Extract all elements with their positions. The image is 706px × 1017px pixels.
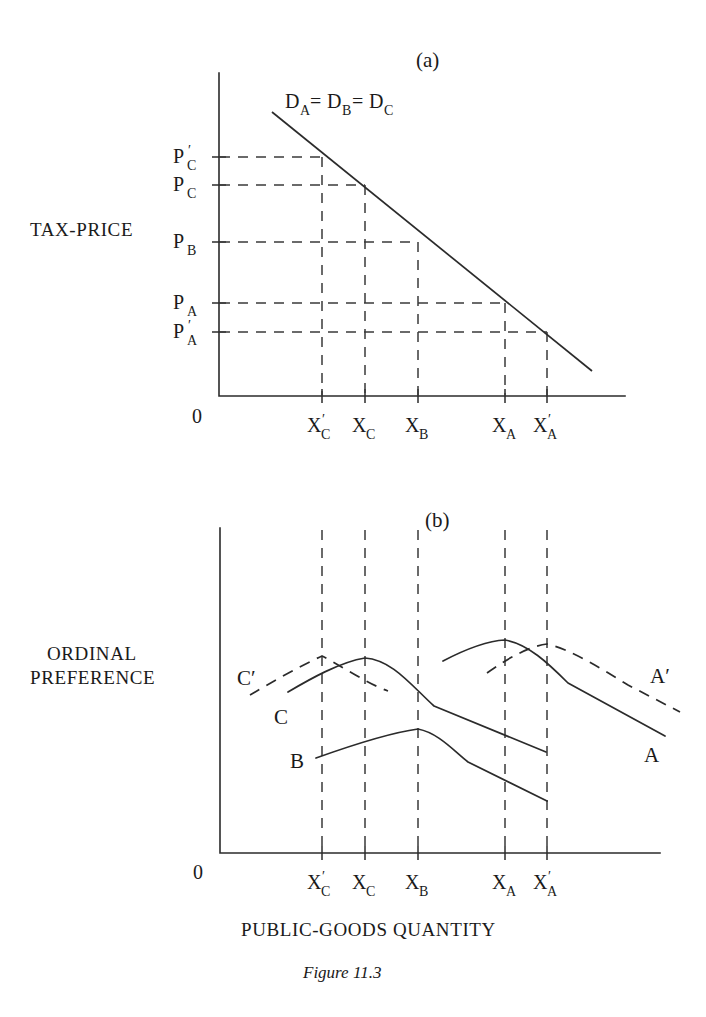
x-tick-label-xa-b-sub: A: [506, 884, 517, 899]
y-tick-label-pa-base: P: [173, 291, 184, 313]
demand-label-d1: D: [285, 90, 299, 112]
panel-a-horizontal-guides: [220, 157, 547, 332]
x-tick-label-xc-prime-a-sub: C: [321, 427, 330, 442]
demand-label-sub-c: C: [384, 103, 393, 118]
demand-label-d3: D: [369, 90, 383, 112]
curve-label-b: B: [290, 749, 304, 773]
figure-svg: (a) TAX-PRICE 0 P ′ C: [0, 0, 706, 1017]
x-tick-label-xa-b: X A: [492, 871, 517, 899]
x-tick-label-xc-b-base: X: [352, 871, 367, 893]
y-tick-label-pc-base: P: [173, 173, 184, 195]
y-tick-label-pa-sub: A: [187, 304, 198, 319]
preference-curve-c: [288, 658, 546, 752]
panel-b-y-axis-title-line2: PREFERENCE: [30, 667, 155, 688]
panel-a: (a) TAX-PRICE 0 P ′ C: [30, 48, 625, 442]
x-tick-label-xc-prime-b: X ′ C: [307, 869, 330, 899]
x-tick-label-xa-prime-a-mark: ′: [548, 412, 551, 427]
panel-a-label: (a): [416, 48, 439, 72]
panel-b-vertical-guides: [322, 530, 547, 852]
x-tick-label-xc-a-base: X: [352, 414, 367, 436]
panel-a-vertical-guides: [322, 157, 547, 395]
y-tick-label-pa-prime-sub: A: [187, 333, 198, 348]
x-tick-label-xc-prime-b-mark: ′: [322, 869, 325, 884]
y-tick-label-pc-prime-base: P: [173, 145, 184, 167]
demand-curve-label: D A = D B = D C: [285, 90, 393, 118]
panel-b-axes: [220, 528, 660, 853]
demand-label-sub-b: B: [342, 103, 351, 118]
y-tick-label-pa-prime-mark: ′: [188, 318, 191, 333]
x-tick-label-xc-a-sub: C: [366, 427, 375, 442]
x-tick-label-xb-a-sub: B: [419, 427, 428, 442]
y-tick-label-pa-prime: P ′ A: [173, 318, 198, 348]
x-tick-label-xa-prime-a-base: X: [533, 414, 548, 436]
panel-a-origin-label: 0: [192, 405, 202, 427]
x-tick-label-xb-b-base: X: [405, 871, 420, 893]
demand-label-eq2: =: [352, 90, 363, 112]
x-tick-label-xc-prime-b-sub: C: [321, 884, 330, 899]
x-tick-label-xc-a: X C: [352, 414, 375, 442]
x-tick-label-xc-prime-a-mark: ′: [322, 412, 325, 427]
figure-caption: Figure 11.3: [302, 963, 381, 982]
y-tick-label-pc-sub: C: [187, 186, 196, 201]
x-tick-label-xa-prime-b-sub: A: [547, 884, 558, 899]
curve-label-c-prime: C′: [237, 666, 256, 690]
x-tick-label-xa-prime-b-mark: ′: [548, 869, 551, 884]
x-tick-label-xc-b-sub: C: [366, 884, 375, 899]
panel-a-x-tick-labels: X ′ C X C X B X A X ′: [307, 412, 558, 442]
demand-label-eq1: =: [310, 90, 321, 112]
curve-label-a-prime: A′: [650, 664, 670, 688]
x-tick-label-xc-prime-b-base: X: [307, 871, 322, 893]
curve-label-c: C: [274, 705, 288, 729]
y-tick-label-pc: P C: [173, 173, 196, 201]
y-tick-label-pb: P B: [173, 230, 196, 258]
panel-a-y-axis-title: TAX-PRICE: [30, 219, 133, 240]
x-tick-label-xb-a: X B: [405, 414, 428, 442]
y-tick-label-pb-sub: B: [187, 243, 196, 258]
y-tick-label-pc-prime: P ′ C: [173, 143, 196, 173]
x-tick-label-xb-b: X B: [405, 871, 428, 899]
x-tick-label-xa-b-base: X: [492, 871, 507, 893]
panel-b-y-axis-title-line1: ORDINAL: [47, 643, 137, 664]
panel-b-label: (b): [425, 508, 450, 532]
panel-b-origin-label: 0: [193, 861, 203, 883]
x-tick-label-xc-b: X C: [352, 871, 375, 899]
x-tick-label-xa-a-sub: A: [506, 427, 517, 442]
x-tick-label-xc-prime-a: X ′ C: [307, 412, 330, 442]
panel-b-x-tick-labels: X ′ C X C X B X A X ′: [307, 869, 558, 899]
preference-curve-a: [443, 640, 665, 736]
y-tick-label-pc-prime-sub: C: [187, 158, 196, 173]
panel-a-y-tick-labels: P ′ C P C P B P A P ′: [173, 143, 198, 348]
x-tick-label-xa-a-base: X: [492, 414, 507, 436]
x-tick-label-xa-prime-a-sub: A: [547, 427, 558, 442]
figure-container: (a) TAX-PRICE 0 P ′ C: [0, 0, 706, 1017]
y-tick-label-pa: P A: [173, 291, 198, 319]
y-tick-label-pb-base: P: [173, 230, 184, 252]
x-tick-label-xc-prime-a-base: X: [307, 414, 322, 436]
demand-label-d2: D: [327, 90, 341, 112]
preference-curve-b: [316, 729, 547, 801]
y-tick-label-pa-prime-base: P: [173, 320, 184, 342]
x-axis-title: PUBLIC-GOODS QUANTITY: [241, 919, 496, 940]
panel-b: (b) ORDINAL PREFERENCE 0 X ′ C: [30, 508, 680, 899]
x-tick-label-xb-b-sub: B: [419, 884, 428, 899]
x-tick-label-xb-a-base: X: [405, 414, 420, 436]
x-tick-label-xa-a: X A: [492, 414, 517, 442]
y-tick-label-pc-prime-mark: ′: [188, 143, 191, 158]
curve-label-a: A: [644, 743, 660, 767]
x-tick-label-xa-prime-b-base: X: [533, 871, 548, 893]
x-tick-label-xa-prime-a: X ′ A: [533, 412, 558, 442]
x-tick-label-xa-prime-b: X ′ A: [533, 869, 558, 899]
